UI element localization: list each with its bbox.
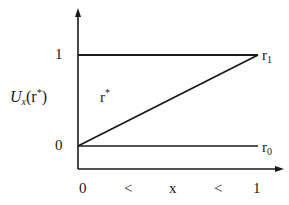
x-label-1: 1 [253,181,261,196]
line-r1-label-sub: 1 [267,54,272,65]
y-axis-arrow-icon [75,8,81,17]
region-label-sup: * [105,87,110,98]
y-axis-label: Ux(r*) [10,88,47,107]
x-label-lt-2: < [214,181,222,196]
line-r0-label: r0 [262,140,272,157]
x-label-x: x [169,181,177,196]
line-r0-label-sub: 0 [267,146,272,157]
y-tick-1: 1 [55,47,63,62]
region-label: r* [100,88,110,105]
y-axis-label-main: U [10,88,22,105]
x-axis-arrow-icon [275,166,284,172]
x-label-0: 0 [79,181,87,196]
y-axis-label-open: (r [26,88,37,105]
x-label-lt-1: < [124,181,132,196]
y-axis-label-close: ) [42,88,47,105]
line-r1-label: r1 [262,48,272,65]
y-tick-0: 0 [55,138,63,153]
